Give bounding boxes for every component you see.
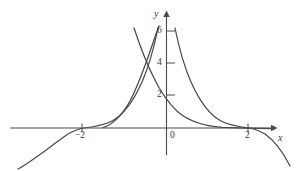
x-axis-label: x bbox=[278, 133, 282, 143]
curve-even-left-branch bbox=[18, 28, 158, 169]
curve-even-right-branch bbox=[175, 28, 290, 166]
plot-canvas bbox=[0, 0, 296, 171]
y-axis-label: y bbox=[154, 9, 158, 19]
y-tick-label-4: 4 bbox=[157, 58, 162, 68]
graph-figure: x y 0 −2 2 2 4 6 bbox=[0, 0, 296, 171]
origin-label: 0 bbox=[170, 131, 175, 141]
curve-rising bbox=[103, 26, 159, 128]
y-tick-label-2: 2 bbox=[157, 90, 162, 100]
y-tick-label-6: 6 bbox=[157, 26, 162, 36]
x-tick-label-2: 2 bbox=[245, 131, 250, 141]
x-tick-label-minus2: −2 bbox=[75, 131, 85, 141]
